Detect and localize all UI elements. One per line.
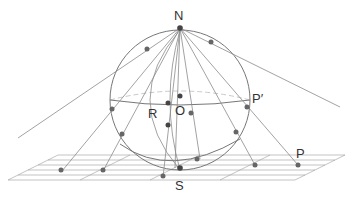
r-point [166,101,171,106]
p-prime-point [245,105,250,110]
sphere-point [234,130,239,135]
north-pole-point [177,25,183,31]
sphere-point [120,132,125,137]
south-pole-point [177,165,183,171]
plane-point [59,168,64,173]
plane-point [101,168,106,173]
label-r: R [148,106,157,121]
p-point [296,163,301,168]
label-p: P [296,146,305,161]
sphere-point [189,111,194,116]
label-south: S [175,178,184,193]
sphere-outline [110,30,250,170]
sphere-point [110,107,115,112]
label-north: N [174,8,183,23]
sphere-point [166,123,171,128]
sphere-point [209,40,214,45]
center-point [178,94,183,99]
plane-point [161,174,166,179]
plane-point [253,163,258,168]
label-p-prime: P′ [252,91,264,106]
sphere [110,30,250,170]
stereographic-projection-diagram: N O R P′ P S [0,0,361,198]
label-center: O [175,103,185,118]
sphere-point [145,47,150,52]
lower-arc [120,139,240,161]
projection-plane-grid [8,155,345,180]
sphere-point [195,157,200,162]
